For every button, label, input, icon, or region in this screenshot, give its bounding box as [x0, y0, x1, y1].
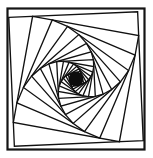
dark-core — [69, 72, 84, 87]
spiral-figure-svg — [0, 0, 153, 158]
spiral-figure-canvas: Whirling squares spiral — [0, 0, 153, 158]
